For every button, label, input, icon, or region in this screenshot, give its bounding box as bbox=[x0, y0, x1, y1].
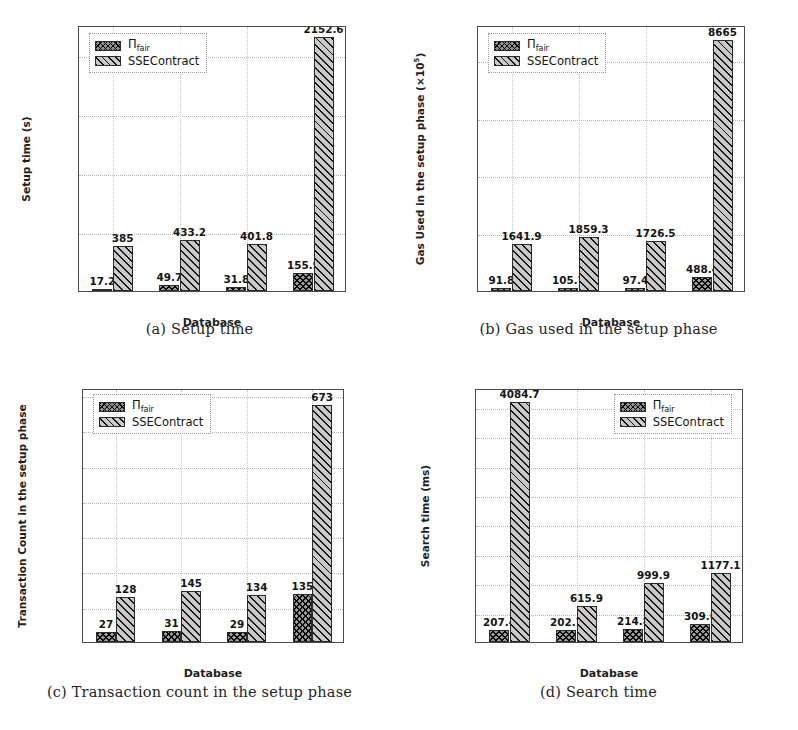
gridline-horizontal bbox=[478, 177, 744, 178]
bar bbox=[227, 632, 247, 642]
y-tick-mark bbox=[475, 614, 476, 615]
bar-value-label: 8665 bbox=[708, 26, 737, 38]
panel-caption-b: (b) Gas used in the setup phase bbox=[399, 321, 798, 337]
bar bbox=[491, 288, 511, 291]
legend-a: ΠfairSSEContract bbox=[89, 33, 207, 73]
x-tick-mark bbox=[512, 291, 513, 292]
x-tick-mark bbox=[646, 291, 647, 292]
bar bbox=[312, 405, 332, 642]
x-tick-mark bbox=[247, 642, 248, 643]
y-tick-mark bbox=[477, 119, 478, 120]
y-tick-mark bbox=[82, 608, 83, 609]
y-axis-title: Setup time (s) bbox=[20, 26, 32, 292]
y-tick-mark bbox=[78, 56, 79, 57]
chart-transaction-count: 0100200300400500600700273129135128145134… bbox=[0, 365, 399, 730]
gridline-horizontal bbox=[83, 538, 343, 539]
x-tick-mark bbox=[116, 642, 117, 643]
y-axis-title: Search time (ms) bbox=[419, 389, 431, 643]
y-tick-mark bbox=[475, 497, 476, 498]
legend-label-ssecontract: SSEContract bbox=[132, 415, 203, 429]
legend-label-ssecontract: SSEContract bbox=[128, 54, 199, 68]
chart-setup-time: 050010001500200017.249.731.8155.9385433.… bbox=[0, 0, 399, 365]
panel-search-time: 05001000150020002500300035004000207.4202… bbox=[399, 365, 798, 730]
bar-value-label: 673 bbox=[311, 391, 333, 403]
legend-d: ΠfairSSEContract bbox=[614, 394, 732, 434]
bar bbox=[92, 289, 112, 291]
bar bbox=[577, 606, 597, 642]
bar bbox=[556, 630, 576, 642]
legend-swatch-pi-fair bbox=[620, 402, 646, 412]
bar bbox=[646, 241, 666, 291]
bar bbox=[510, 402, 530, 642]
bar bbox=[489, 630, 509, 642]
plot-area-a: 050010001500200017.249.731.8155.9385433.… bbox=[78, 26, 346, 292]
legend-row-pi-fair: Πfair bbox=[620, 399, 724, 414]
bar-value-label: 145 bbox=[180, 577, 202, 589]
legend-swatch-pi-fair bbox=[95, 41, 121, 51]
x-tick-mark bbox=[577, 642, 578, 643]
legend-label-ssecontract: SSEContract bbox=[653, 415, 724, 429]
x-tick-mark bbox=[579, 291, 580, 292]
y-tick-mark bbox=[78, 174, 79, 175]
y-tick-mark bbox=[475, 585, 476, 586]
legend-swatch-ssecontract bbox=[494, 56, 520, 66]
bar bbox=[623, 629, 643, 642]
y-tick-mark bbox=[477, 61, 478, 62]
y-tick-mark bbox=[475, 438, 476, 439]
bar bbox=[180, 240, 200, 291]
legend-row-pi-fair: Πfair bbox=[95, 38, 199, 53]
gridline-vertical bbox=[577, 390, 578, 642]
legend-label-ssecontract: SSEContract bbox=[527, 54, 598, 68]
bar bbox=[247, 595, 267, 642]
x-tick-mark bbox=[247, 291, 248, 292]
panel-gas-used: 0200040006000800091.8105.797.4488.41641.… bbox=[399, 0, 798, 365]
bar-value-label: 385 bbox=[112, 232, 134, 244]
bar-value-label: 615.9 bbox=[570, 592, 603, 604]
y-tick-mark bbox=[475, 555, 476, 556]
bar bbox=[116, 597, 136, 642]
y-tick-mark bbox=[475, 467, 476, 468]
legend-row-ssecontract: SSEContract bbox=[99, 414, 203, 429]
panel-caption-a: (a) Setup time bbox=[0, 321, 399, 337]
x-tick-mark bbox=[113, 291, 114, 292]
bar bbox=[181, 591, 201, 642]
bar-value-label: 4084.7 bbox=[499, 389, 539, 400]
panel-caption-c: (c) Transaction count in the setup phase bbox=[0, 684, 399, 700]
bar bbox=[711, 573, 731, 642]
legend-row-pi-fair: Πfair bbox=[99, 399, 203, 414]
x-tick-mark bbox=[713, 291, 714, 292]
y-tick-mark bbox=[82, 502, 83, 503]
bar-value-label: 31 bbox=[164, 617, 178, 629]
x-tick-mark bbox=[180, 291, 181, 292]
y-tick-label: 0 bbox=[477, 287, 478, 292]
bar-value-label: 31.8 bbox=[224, 273, 250, 285]
gridline-horizontal bbox=[83, 573, 343, 574]
bar-value-label: 999.9 bbox=[637, 569, 670, 581]
y-tick-mark bbox=[477, 177, 478, 178]
y-tick-mark bbox=[82, 467, 83, 468]
bar-value-label: 27 bbox=[99, 618, 113, 630]
y-tick-mark bbox=[82, 397, 83, 398]
legend-row-pi-fair: Πfair bbox=[494, 38, 598, 53]
legend-swatch-ssecontract bbox=[620, 417, 646, 427]
panel-setup-time: 050010001500200017.249.731.8155.9385433.… bbox=[0, 0, 399, 365]
bar-value-label: 1641.9 bbox=[501, 230, 541, 242]
x-tick-mark bbox=[711, 642, 712, 643]
bar-value-label: 128 bbox=[115, 583, 137, 595]
plot-area-d: 05001000150020002500300035004000207.4202… bbox=[475, 389, 743, 643]
bar bbox=[692, 277, 712, 291]
legend-swatch-ssecontract bbox=[95, 56, 121, 66]
y-tick-mark bbox=[475, 526, 476, 527]
x-axis-title: Database bbox=[475, 667, 743, 680]
x-tick-mark bbox=[312, 642, 313, 643]
panel-caption-d: (d) Search time bbox=[399, 684, 798, 700]
plot-area-c: 0100200300400500600700273129135128145134… bbox=[82, 389, 344, 643]
y-tick-label: 0 bbox=[78, 287, 79, 292]
legend-row-ssecontract: SSEContract bbox=[620, 414, 724, 429]
legend-label-pi-fair: Πfair bbox=[527, 37, 549, 53]
panel-transaction-count: 0100200300400500600700273129135128145134… bbox=[0, 365, 399, 730]
bar-value-label: 134 bbox=[246, 581, 268, 593]
bar bbox=[113, 246, 133, 292]
legend-swatch-pi-fair bbox=[494, 41, 520, 51]
legend-label-pi-fair: Πfair bbox=[653, 398, 675, 414]
